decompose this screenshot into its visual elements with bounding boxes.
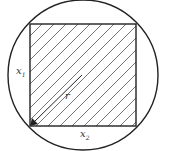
diagram-canvas: x1 x2 r: [0, 0, 169, 151]
radius-line: [34, 75, 82, 122]
hatching: [0, 24, 169, 134]
label-x1: x1: [16, 65, 25, 78]
label-x2: x2: [80, 128, 90, 141]
